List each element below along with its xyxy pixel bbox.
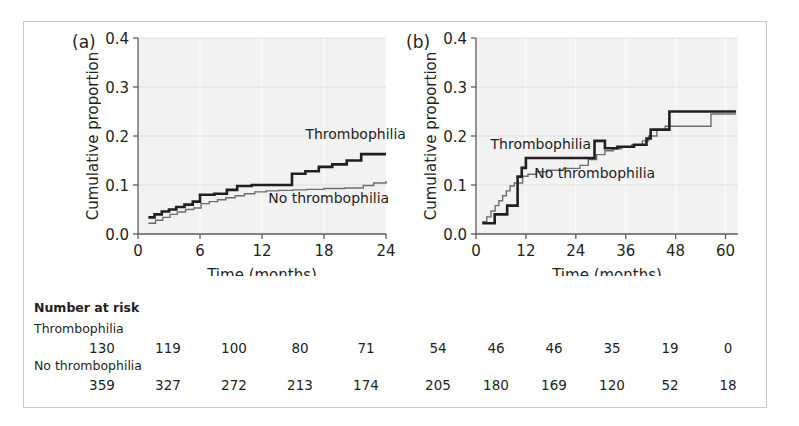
y-tick-label: 0.3 <box>443 79 467 97</box>
figure-root: (a) 0.00.10.20.30.406121824Time (months)… <box>0 0 799 426</box>
x-tick-label: 0 <box>133 242 143 260</box>
risk-value: 205 <box>415 377 461 393</box>
panel-b: (b) 0.00.10.20.30.401224364860Time (mont… <box>398 26 758 276</box>
y-tick-label: 0.4 <box>105 30 129 48</box>
risk-value: 80 <box>277 340 323 356</box>
x-tick-label: 18 <box>314 242 333 260</box>
y-axis-title: Cumulative proportion <box>84 52 102 221</box>
risk-value: 130 <box>79 340 125 356</box>
risk-value: 213 <box>277 377 323 393</box>
x-tick-label: 24 <box>566 242 585 260</box>
number-at-risk-table: Number at risk Thrombophilia 13011910080… <box>34 300 764 406</box>
risk-value: 100 <box>211 340 257 356</box>
x-tick-label: 36 <box>616 242 635 260</box>
y-tick-label: 0.1 <box>443 177 467 195</box>
risk-value: 119 <box>145 340 191 356</box>
panel-a-tag: (a) <box>72 32 96 52</box>
x-tick-label: 60 <box>716 242 735 260</box>
x-tick-label: 24 <box>376 242 395 260</box>
risk-value: 35 <box>589 340 635 356</box>
x-axis-title: Time (months) <box>551 266 662 276</box>
risk-value: 120 <box>589 377 635 393</box>
risk-value: 19 <box>647 340 693 356</box>
curve-annotation: No thrombophilia <box>534 165 655 181</box>
number-at-risk-title: Number at risk <box>34 300 139 315</box>
risk-value: 46 <box>531 340 577 356</box>
x-tick-label: 12 <box>516 242 535 260</box>
panel-a: (a) 0.00.10.20.30.406121824Time (months)… <box>60 26 405 276</box>
risk-value: 359 <box>79 377 125 393</box>
risk-value: 46 <box>473 340 519 356</box>
y-tick-label: 0.4 <box>443 30 467 48</box>
x-tick-label: 12 <box>252 242 271 260</box>
risk-value: 272 <box>211 377 257 393</box>
y-tick-label: 0.2 <box>443 128 467 146</box>
panel-b-tag: (b) <box>406 32 430 52</box>
curve-annotation: Thrombophilia <box>304 126 405 142</box>
risk-value: 169 <box>531 377 577 393</box>
risk-value: 52 <box>647 377 693 393</box>
risk-value: 180 <box>473 377 519 393</box>
risk-value: 18 <box>705 377 751 393</box>
risk-value: 54 <box>415 340 461 356</box>
risk-value: 71 <box>343 340 389 356</box>
x-axis-title: Time (months) <box>206 266 317 276</box>
y-tick-label: 0.3 <box>105 79 129 97</box>
y-tick-label: 0.0 <box>443 226 467 244</box>
x-tick-label: 6 <box>195 242 205 260</box>
x-tick-label: 48 <box>666 242 685 260</box>
y-tick-label: 0.1 <box>105 177 129 195</box>
curve-annotation: No thrombophilia <box>268 190 389 206</box>
y-axis-title: Cumulative proportion <box>422 52 440 221</box>
y-tick-label: 0.0 <box>105 226 129 244</box>
panel-a-plot: 0.00.10.20.30.406121824Time (months)Cumu… <box>60 26 405 276</box>
risk-group-label-no-thrombophilia: No thrombophilia <box>34 358 142 373</box>
x-tick-label: 0 <box>471 242 481 260</box>
risk-value: 174 <box>343 377 389 393</box>
curve-annotation: Thrombophilia <box>490 136 592 152</box>
risk-group-label-thrombophilia: Thrombophilia <box>34 321 124 336</box>
risk-value: 0 <box>705 340 751 356</box>
y-tick-label: 0.2 <box>105 128 129 146</box>
risk-value: 327 <box>145 377 191 393</box>
panel-b-plot: 0.00.10.20.30.401224364860Time (months)C… <box>398 26 758 276</box>
